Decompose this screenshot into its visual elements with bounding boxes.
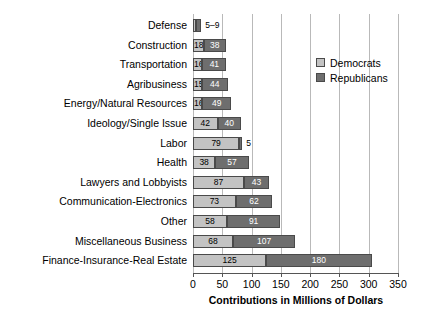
category-label-0: Defense (148, 19, 187, 32)
x-tick-350 (398, 273, 399, 277)
bar-segment-republicans[interactable]: 180 (266, 254, 371, 267)
bar-value-label-outside: 5–9 (205, 19, 219, 32)
legend-label: Democrats (330, 57, 381, 69)
category-label-3: Agribusiness (127, 78, 187, 91)
bar-segment-republicans[interactable]: 40 (218, 117, 241, 130)
gridline-300 (369, 14, 370, 273)
gridline-350 (398, 14, 399, 273)
bar-segment-republicans[interactable] (239, 137, 242, 150)
x-tick-100 (252, 273, 253, 277)
category-label-5: Ideology/Single Issue (87, 117, 187, 130)
bar-segment-republicans[interactable]: 107 (233, 235, 296, 248)
plot-area: 5–91838164115441649424079538578743736258… (193, 14, 398, 273)
bar-segment-republicans[interactable] (196, 19, 201, 32)
category-label-9: Communication-Electronics (59, 195, 187, 208)
x-tick-label-350: 350 (378, 278, 418, 290)
category-label-6: Labor (160, 137, 187, 150)
bar-segment-democrats[interactable]: 125 (193, 254, 266, 267)
x-tick-250 (339, 273, 340, 277)
category-label-11: Miscellaneous Business (75, 235, 187, 248)
gridline-200 (310, 14, 311, 273)
bar-segment-democrats[interactable]: 38 (193, 156, 215, 169)
legend-item-republicans[interactable]: Republicans (316, 70, 388, 85)
x-axis-title: Contributions in Millions of Dollars (193, 294, 399, 306)
bar-segment-democrats[interactable]: 79 (193, 137, 239, 150)
legend-item-democrats[interactable]: Democrats (316, 55, 388, 70)
bar-segment-democrats[interactable]: 15 (193, 78, 202, 91)
x-tick-150 (281, 273, 282, 277)
gridline-250 (339, 14, 340, 273)
x-tick-0 (193, 273, 194, 277)
bar-segment-republicans[interactable]: 49 (202, 97, 231, 110)
bar-segment-democrats[interactable]: 42 (193, 117, 218, 130)
category-label-8: Lawyers and Lobbyists (80, 176, 187, 189)
x-tick-50 (222, 273, 223, 277)
bar-segment-democrats[interactable]: 68 (193, 235, 233, 248)
bar-segment-republicans[interactable]: 41 (202, 58, 226, 71)
bar-segment-republicans[interactable]: 44 (202, 78, 228, 91)
chart-legend: DemocratsRepublicans (316, 55, 388, 85)
bar-segment-republicans[interactable]: 62 (236, 195, 272, 208)
bar-segment-democrats[interactable]: 58 (193, 215, 227, 228)
category-label-4: Energy/Natural Resources (64, 97, 187, 110)
bar-segment-republicans[interactable]: 43 (244, 176, 269, 189)
legend-label: Republicans (330, 72, 388, 84)
stacked-bar-chart: DefenseConstructionTransportationAgribus… (0, 0, 426, 324)
category-label-1: Construction (128, 39, 187, 52)
bar-segment-republicans[interactable]: 38 (204, 39, 226, 52)
bar-segment-democrats[interactable]: 16 (193, 97, 202, 110)
bar-segment-democrats[interactable]: 73 (193, 195, 236, 208)
category-label-10: Other (161, 215, 187, 228)
category-label-7: Health (157, 156, 187, 169)
bar-segment-republicans[interactable]: 91 (227, 215, 280, 228)
bar-segment-democrats[interactable]: 18 (193, 39, 204, 52)
category-label-12: Finance-Insurance-Real Estate (42, 254, 187, 267)
legend-swatch-icon (316, 73, 325, 82)
bar-segment-democrats[interactable]: 16 (193, 58, 202, 71)
category-label-2: Transportation (120, 58, 187, 71)
x-tick-300 (369, 273, 370, 277)
bar-value-label-outside: 5 (246, 137, 251, 150)
x-tick-200 (310, 273, 311, 277)
legend-swatch-icon (316, 58, 325, 67)
bar-segment-democrats[interactable]: 87 (193, 176, 244, 189)
bar-segment-republicans[interactable]: 57 (215, 156, 248, 169)
